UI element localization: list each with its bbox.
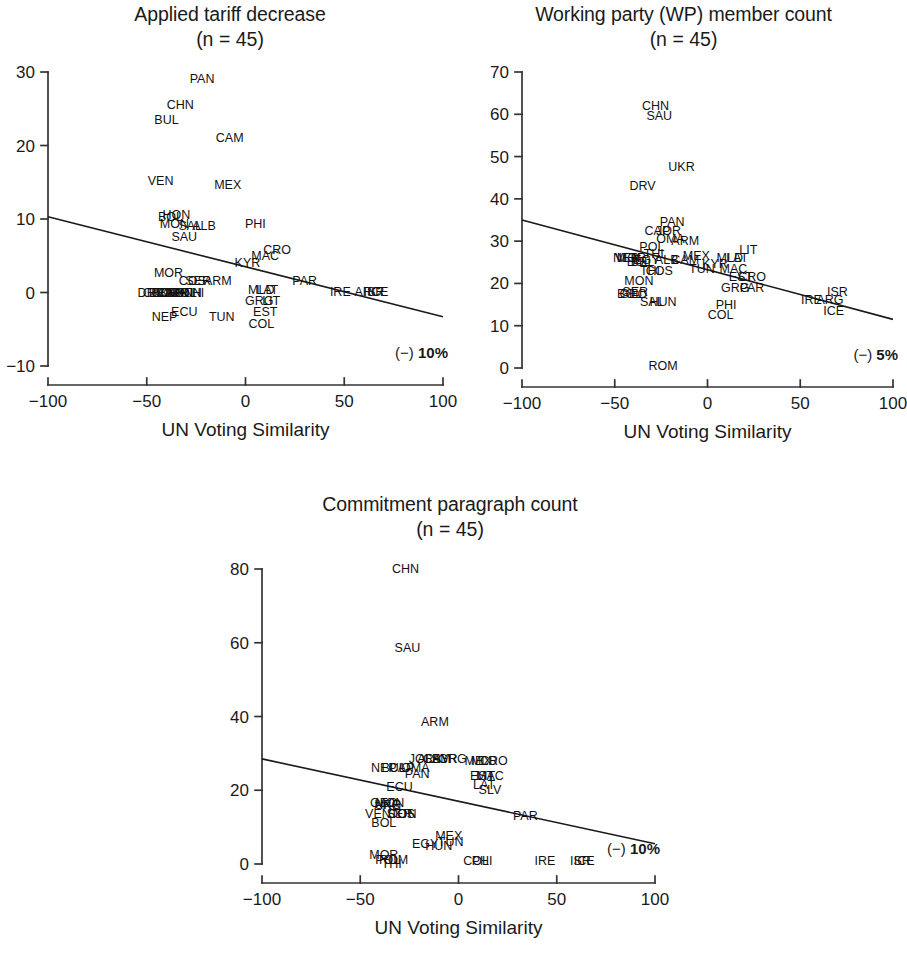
data-point-label: ARM: [204, 274, 232, 288]
data-point-label: HUN: [649, 295, 676, 309]
data-point-label: ARM: [421, 715, 449, 729]
y-axis-tick-label: 60: [490, 105, 509, 124]
three-panel-scatter-figure: Applied tariff decrease (n = 45) −100102…: [0, 0, 907, 956]
x-axis-tick-label: −100: [243, 890, 281, 909]
data-point-label: CHN: [167, 98, 194, 112]
data-point-label: CAM: [216, 131, 244, 145]
data-point-label: SAU: [646, 109, 672, 123]
x-axis-tick-label: −50: [600, 394, 629, 413]
y-axis-tick-label: 80: [230, 560, 249, 579]
data-point-label: MEX: [214, 178, 242, 192]
x-axis-tick-label: −50: [346, 890, 375, 909]
y-axis-tick-label: 0: [500, 359, 509, 378]
x-axis-tick-label: −100: [503, 394, 541, 413]
panel-working-party-member-count: Working party (WP) member count (n = 45)…: [460, 0, 907, 440]
y-axis: 010203040506070: [490, 63, 522, 378]
data-point-label: ROM: [648, 359, 677, 373]
data-point-label: PHI: [245, 217, 266, 231]
x-axis-title: UN Voting Similarity: [375, 917, 543, 938]
data-point-label: PAN: [405, 767, 430, 781]
data-point-labels: PANCHNBULCAMVENMEXBOLHONMONSALALBPHISAUC…: [138, 72, 389, 331]
data-point-label: PAR: [513, 809, 538, 823]
data-point-label: CRO: [480, 754, 508, 768]
data-point-label: BEL: [631, 255, 655, 269]
data-point-label: PAN: [190, 72, 215, 86]
x-axis-tick-label: 0: [241, 392, 250, 411]
data-point-label: DRV: [629, 179, 656, 193]
x-axis: −100−50050100: [29, 378, 457, 411]
data-point-label: PAR: [292, 274, 317, 288]
scatter-plot-canvas: 010203040506070−100−50050100UN Voting Si…: [460, 0, 907, 440]
y-axis-tick-label: 20: [230, 781, 249, 800]
slope-annotation: (−) 5%: [853, 346, 898, 363]
y-axis-tick-label: 30: [490, 232, 509, 251]
x-axis: −100−50050100: [503, 380, 907, 413]
x-axis-tick-label: 0: [703, 394, 712, 413]
y-axis-tick-label: 10: [16, 210, 35, 229]
y-axis-tick-label: 40: [490, 190, 509, 209]
data-point-label: ARM: [671, 234, 699, 248]
data-point-label: PAR: [740, 281, 765, 295]
data-point-label: KYR: [235, 256, 261, 270]
x-axis-tick-label: 100: [641, 890, 669, 909]
y-axis-tick-label: 0: [240, 855, 249, 874]
y-axis-tick-label: 10: [490, 317, 509, 336]
data-point-label: ICE: [823, 304, 844, 318]
slope-annotation: (−) 10%: [607, 840, 660, 857]
x-axis: −100−50050100: [243, 876, 669, 909]
data-point-label: SLV: [479, 783, 502, 797]
data-point-label: BUL: [154, 113, 178, 127]
data-point-label: ICE: [574, 854, 595, 868]
data-point-label: IRE: [535, 854, 556, 868]
y-axis-tick-label: −10: [6, 357, 35, 376]
x-axis-tick-label: −100: [29, 392, 67, 411]
y-axis-tick-label: 0: [26, 284, 35, 303]
y-axis: 020406080: [230, 560, 262, 874]
slope-annotation: (−) 10%: [395, 344, 448, 361]
scatter-plot-canvas: −100102030−100−50050100UN Voting Similar…: [0, 0, 460, 440]
y-axis-tick-label: 20: [490, 274, 509, 293]
data-point-label: ICE: [367, 285, 388, 299]
data-point-label: CHN: [392, 562, 419, 576]
data-point-label: NEP: [152, 310, 178, 324]
y-axis-tick-label: 60: [230, 634, 249, 653]
data-point-label: VEN: [148, 174, 174, 188]
y-axis-tick-label: 40: [230, 708, 249, 727]
x-axis-tick-label: 50: [547, 890, 566, 909]
x-axis-title: UN Voting Similarity: [162, 419, 330, 440]
data-point-label: GRG: [438, 752, 466, 766]
data-point-label: PHI: [472, 854, 493, 868]
data-point-label: THI: [382, 857, 402, 871]
data-point-label: BOL: [371, 816, 396, 830]
data-point-label: IRE: [330, 285, 351, 299]
y-axis-tick-label: 50: [490, 148, 509, 167]
data-point-label: COL: [708, 308, 734, 322]
x-axis-tick-label: 50: [335, 392, 354, 411]
y-axis-tick-label: 70: [490, 63, 509, 82]
data-point-label: THI: [184, 286, 204, 300]
data-point-label: ECU: [386, 780, 412, 794]
data-point-label: SAU: [395, 641, 421, 655]
data-point-labels: CHNSAUARMJORALBCAMKYRGRGMEXMLDCRONEPBULC…: [365, 562, 595, 871]
x-axis-tick-label: 100: [879, 394, 907, 413]
x-axis-tick-label: −50: [132, 392, 161, 411]
panel-applied-tariff-decrease: Applied tariff decrease (n = 45) −100102…: [0, 0, 460, 440]
x-axis-tick-label: 0: [454, 890, 463, 909]
data-point-label: COL: [248, 317, 274, 331]
x-axis-tick-label: 100: [429, 392, 457, 411]
data-point-label: SAU: [171, 230, 197, 244]
panel-commitment-paragraph-count: Commitment paragraph count (n = 45) 0204…: [200, 490, 700, 956]
x-axis-tick-label: 50: [791, 394, 810, 413]
data-point-label: TUN: [209, 310, 235, 324]
data-point-label: GEO: [619, 287, 647, 301]
data-point-labels: CHNSAUUKRDRVPANCAPJOROMAARMPOLLITTHIMEXV…: [613, 99, 848, 373]
y-axis-tick-label: 20: [16, 137, 35, 156]
data-point-label: HUN: [425, 839, 452, 853]
y-axis-tick-label: 30: [16, 63, 35, 82]
y-axis: −100102030: [6, 63, 48, 376]
data-point-label: TUN: [689, 262, 715, 276]
scatter-plot-canvas: 020406080−100−50050100UN Voting Similari…: [200, 490, 700, 956]
x-axis-title: UN Voting Similarity: [624, 421, 792, 442]
data-point-label: UKR: [668, 160, 694, 174]
